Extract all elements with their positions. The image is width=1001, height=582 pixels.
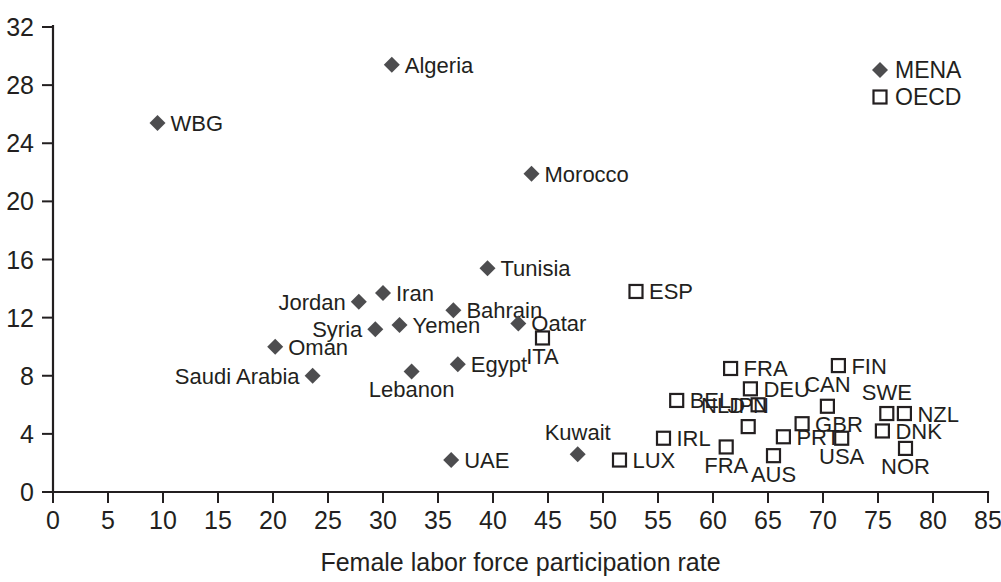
y-tick-label-28: 28 [6, 71, 34, 99]
x-tick-label-40: 40 [479, 506, 507, 534]
y-tick-label-20: 20 [6, 187, 34, 215]
point-label-jordan: Jordan [279, 290, 346, 315]
y-tick-label-16: 16 [6, 246, 34, 274]
point-marker-syria[interactable] [367, 321, 383, 337]
legend-label-oecd: OECD [895, 84, 961, 110]
plot-canvas: 0510152025303540455055606570758085048121… [0, 0, 1001, 582]
point-label-aus: AUS [751, 462, 796, 487]
point-label-egypt: Egypt [471, 352, 527, 377]
x-axis-title: Female labor force participation rate [320, 548, 720, 576]
point-marker-usa[interactable] [835, 432, 848, 445]
point-marker-irl[interactable] [657, 432, 670, 445]
point-label-deu: DEU [763, 377, 809, 402]
point-label-dnk: DNK [895, 419, 942, 444]
point-label-ita: ITA [526, 344, 559, 369]
point-marker-oman[interactable] [267, 339, 283, 355]
y-tick-label-4: 4 [20, 420, 34, 448]
point-marker-jpn[interactable] [742, 420, 755, 433]
point-label-morocco: Morocco [545, 162, 629, 187]
y-tick-label-12: 12 [6, 304, 34, 332]
point-label-yemen: Yemen [413, 313, 481, 338]
point-marker-morocco[interactable] [524, 166, 540, 182]
point-marker-wbg[interactable] [150, 115, 166, 131]
x-tick-label-30: 30 [369, 506, 397, 534]
point-label-uae: UAE [464, 448, 509, 473]
point-marker-yemen[interactable] [392, 317, 408, 333]
x-tick-label-25: 25 [314, 506, 342, 534]
point-marker-esp[interactable] [630, 285, 643, 298]
legend-marker-mena[interactable] [872, 62, 888, 78]
point-label-algeria: Algeria [405, 53, 474, 78]
scatter-plot-figure: 0510152025303540455055606570758085048121… [0, 0, 1001, 582]
point-label-fin: FIN [851, 354, 886, 379]
point-marker-dnk[interactable] [876, 424, 889, 437]
x-tick-label-75: 75 [864, 506, 892, 534]
point-label-saudi-arabia: Saudi Arabia [175, 364, 301, 389]
point-label-can: CAN [804, 372, 850, 397]
x-tick-label-80: 80 [919, 506, 947, 534]
point-marker-ita[interactable] [536, 331, 549, 344]
x-tick-label-85: 85 [974, 506, 1001, 534]
point-label-kuwait: Kuwait [545, 420, 611, 445]
point-marker-saudi-arabia[interactable] [305, 368, 321, 384]
point-label-swe: SWE [862, 380, 912, 405]
point-label-fra: FRA [704, 453, 748, 478]
x-tick-label-50: 50 [589, 506, 617, 534]
point-marker-egypt[interactable] [450, 356, 466, 372]
x-tick-label-70: 70 [809, 506, 837, 534]
y-tick-label-32: 32 [6, 13, 34, 41]
point-label-lebanon: Lebanon [369, 377, 455, 402]
y-tick-label-24: 24 [6, 129, 34, 157]
x-tick-label-5: 5 [101, 506, 115, 534]
point-label-wbg: WBG [171, 111, 224, 136]
x-tick-label-35: 35 [424, 506, 452, 534]
x-tick-label-15: 15 [204, 506, 232, 534]
point-marker-fra[interactable] [720, 440, 733, 453]
y-tick-label-8: 8 [20, 362, 34, 390]
point-marker-algeria[interactable] [384, 57, 400, 73]
x-tick-label-0: 0 [46, 506, 60, 534]
point-marker-swe[interactable] [880, 407, 893, 420]
point-label-iran: Iran [396, 281, 434, 306]
point-label-jpn: JPN [727, 393, 769, 418]
point-marker-prt[interactable] [777, 430, 790, 443]
legend-marker-oecd[interactable] [874, 91, 887, 104]
y-tick-label-0: 0 [20, 478, 34, 506]
point-label-lux: LUX [633, 448, 676, 473]
x-tick-label-45: 45 [534, 506, 562, 534]
point-marker-iran[interactable] [375, 285, 391, 301]
point-label-nor: NOR [881, 454, 930, 479]
point-marker-kuwait[interactable] [570, 446, 586, 462]
x-tick-label-60: 60 [699, 506, 727, 534]
point-marker-nor[interactable] [899, 442, 912, 455]
legend-label-mena: MENA [895, 57, 962, 83]
point-marker-bel[interactable] [670, 394, 683, 407]
point-marker-uae[interactable] [443, 452, 459, 468]
point-marker-fin[interactable] [832, 359, 845, 372]
point-label-esp: ESP [649, 279, 693, 304]
point-label-tunisia: Tunisia [501, 256, 572, 281]
point-label-usa: USA [819, 444, 865, 469]
x-tick-label-20: 20 [259, 506, 287, 534]
point-label-irl: IRL [677, 426, 711, 451]
x-tick-label-55: 55 [644, 506, 672, 534]
point-marker-tunisia[interactable] [480, 260, 496, 276]
point-marker-aus[interactable] [767, 449, 780, 462]
point-label-oman: Oman [288, 335, 348, 360]
x-tick-label-10: 10 [149, 506, 177, 534]
x-tick-label-65: 65 [754, 506, 782, 534]
point-marker-lux[interactable] [613, 454, 626, 467]
point-marker-fra[interactable] [724, 362, 737, 375]
point-marker-jordan[interactable] [351, 294, 367, 310]
